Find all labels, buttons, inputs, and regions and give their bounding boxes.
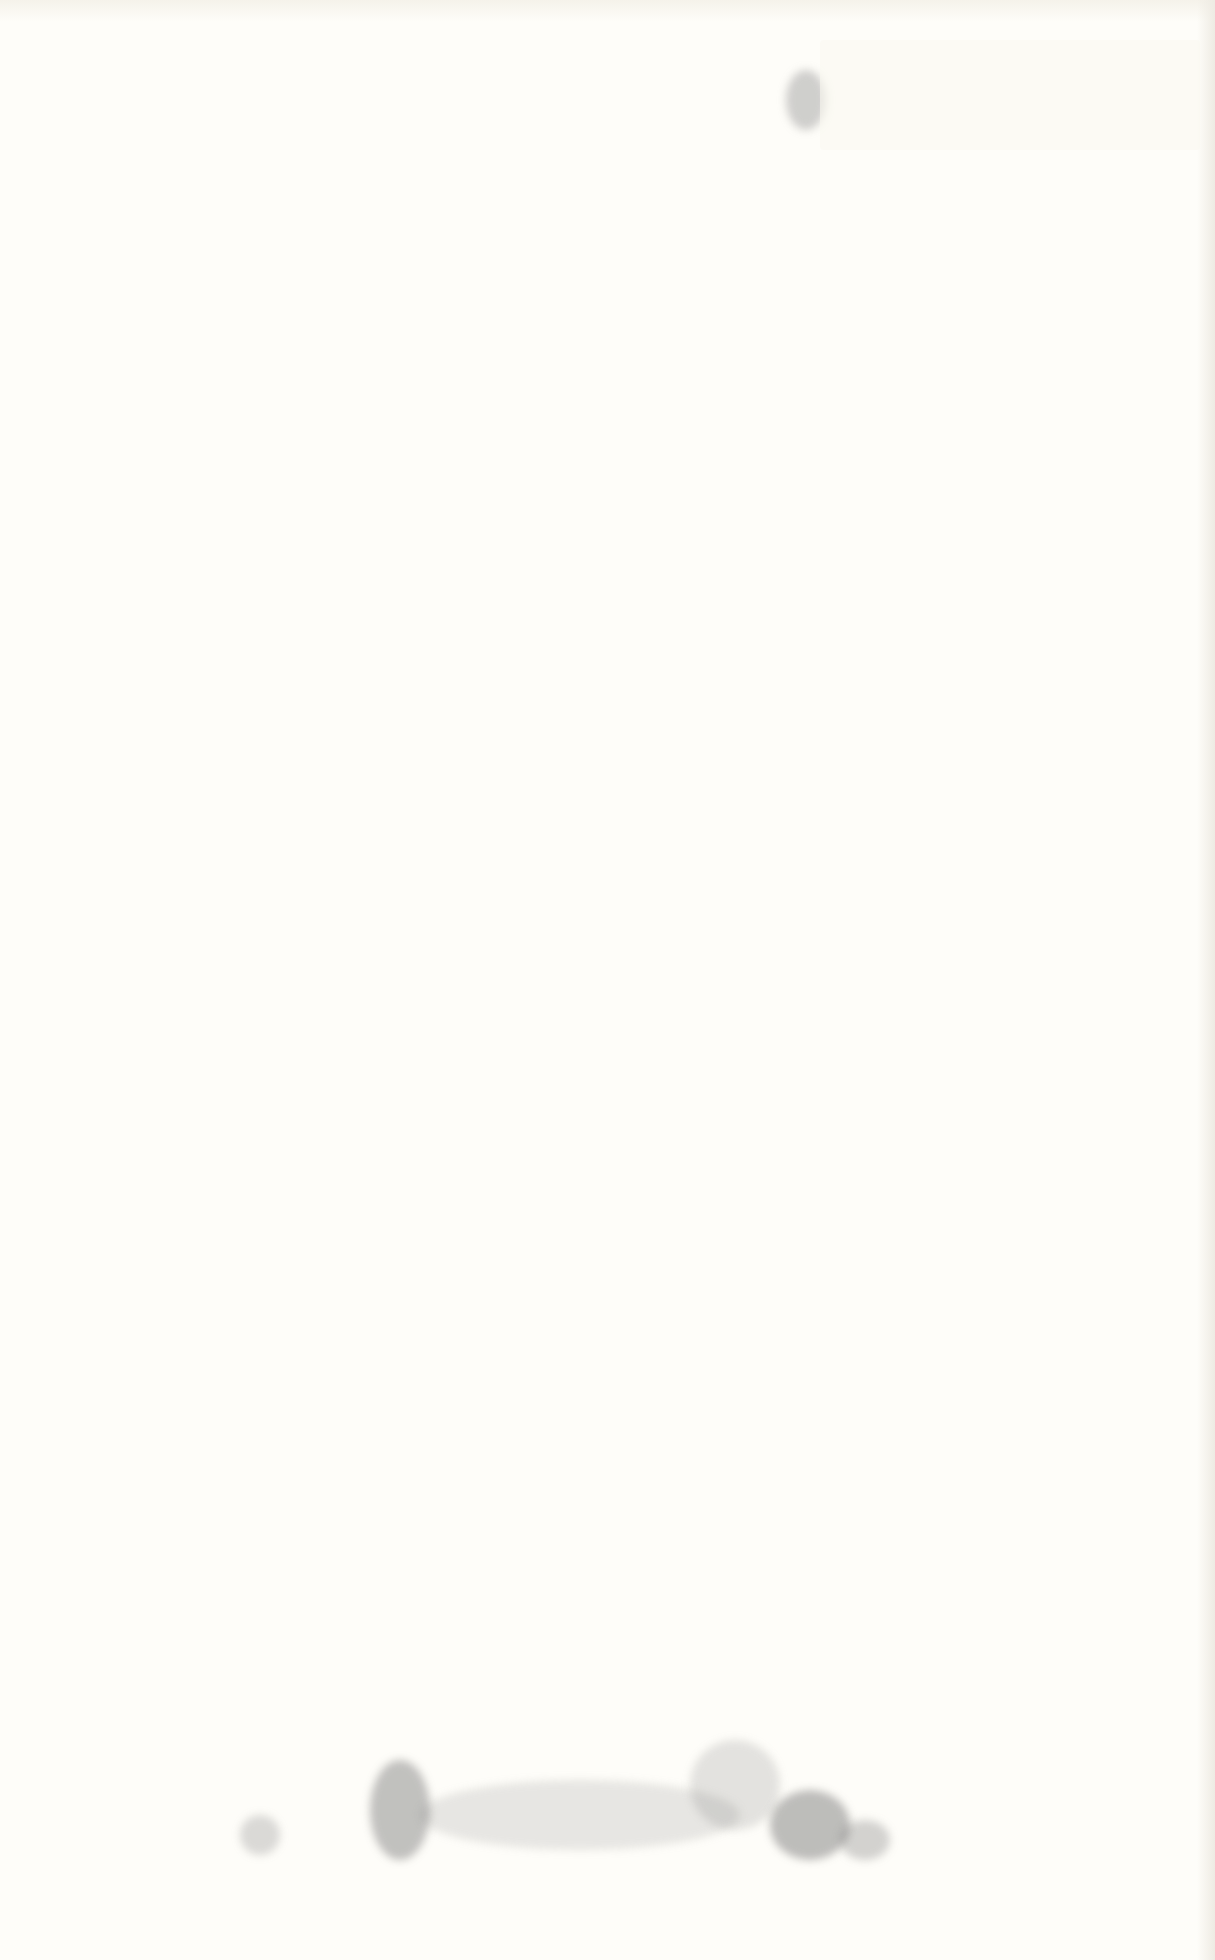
- ink-smudge-bottom: [240, 1815, 280, 1855]
- page-right-edge: [1197, 0, 1215, 1960]
- bleed-through-text: [330, 1115, 890, 1190]
- ink-smudge-bottom: [840, 1820, 890, 1860]
- page-top-edge: [0, 0, 1215, 22]
- scanned-page: [0, 0, 1215, 1960]
- ink-smudge-bottom: [690, 1740, 780, 1830]
- paper-patch-top: [820, 40, 1200, 150]
- ink-smudge-bottom: [770, 1790, 850, 1860]
